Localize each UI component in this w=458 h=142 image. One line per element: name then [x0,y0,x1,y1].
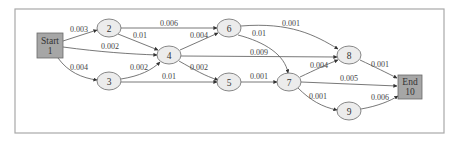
start-label: Start [41,36,59,46]
node-5: 5 [217,73,241,91]
edge-label-9-10: 0.006 [371,93,389,102]
node-end: End 10 [398,75,422,99]
node-9-label: 9 [347,107,352,117]
edge-label-6-7: 0.01 [252,29,266,38]
edge-label-7-9: 0.001 [309,92,327,101]
edge-label-7-8: 0.004 [310,61,328,70]
node-7-label: 7 [287,78,292,88]
start-number: 1 [48,46,53,56]
edge-label-1-2: 0.003 [70,25,88,34]
node-4-label: 4 [167,51,172,61]
edge-label-1-3: 0.004 [70,63,88,72]
node-3: 3 [97,72,121,90]
node-2: 2 [97,19,121,37]
node-8: 8 [337,46,361,64]
edge-label-4-5: 0.002 [190,63,208,72]
edge-label-4-6: 0.004 [190,31,208,40]
node-4: 4 [157,46,181,64]
end-number: 10 [405,87,415,97]
edge-label-5-7: 0.001 [250,72,268,81]
node-8-label: 8 [347,51,352,61]
graph-canvas: 0.003 0.002 0.004 0.006 0.01 0.002 0.01 … [0,0,458,142]
node-9: 9 [337,102,361,120]
edge-label-8-10: 0.001 [371,60,389,69]
edge-label-2-4: 0.01 [133,31,147,40]
edge-label-1-4: 0.002 [101,42,119,51]
edge-label-3-4: 0.002 [130,63,148,72]
node-6-label: 6 [227,24,232,34]
node-7: 7 [277,73,301,91]
node-3-label: 3 [107,77,112,87]
node-start: Start 1 [37,33,63,58]
edge-label-4-8: 0.009 [250,48,268,57]
edge-label-7-10: 0.005 [340,74,358,83]
node-6: 6 [217,19,241,37]
end-label: End [402,77,418,87]
node-5-label: 5 [227,78,232,88]
edge-label-2-6: 0.006 [160,19,178,28]
node-2-label: 2 [107,24,112,34]
edge-label-3-5: 0.01 [162,72,176,81]
edge-label-6-8: 0.001 [282,19,300,28]
